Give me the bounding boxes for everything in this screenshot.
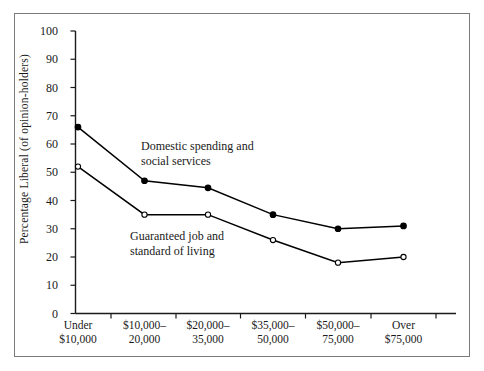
x-axis-ticks bbox=[111, 314, 436, 319]
domestic-spending-label: Domestic spending andsocial services bbox=[141, 139, 254, 169]
x-tick-label-line: $75,000 bbox=[361, 333, 447, 347]
data-point-filled-circle-4 bbox=[335, 226, 341, 232]
series-guaranteed-job bbox=[75, 164, 406, 265]
x-tick-label-5: Over$75,000 bbox=[361, 319, 447, 346]
data-point-filled-circle-2 bbox=[205, 185, 211, 191]
data-point-open-circle-3 bbox=[270, 237, 275, 242]
chart-plot-area bbox=[0, 0, 484, 371]
annotation-line: social services bbox=[141, 154, 254, 169]
data-point-open-circle-2 bbox=[205, 212, 210, 217]
data-point-open-circle-1 bbox=[142, 212, 147, 217]
x-tick-label-line: Over bbox=[361, 319, 447, 333]
figure: Percentage Liberal (of opinion-holders) … bbox=[0, 0, 484, 371]
data-point-open-circle-0 bbox=[75, 164, 80, 169]
annotation-line: standard of living bbox=[130, 244, 224, 259]
data-point-open-circle-4 bbox=[335, 260, 340, 265]
y-axis-ticks bbox=[71, 31, 76, 314]
data-point-filled-circle-3 bbox=[270, 212, 276, 218]
series-line bbox=[78, 167, 404, 263]
annotation-line: Guaranteed job and bbox=[130, 229, 224, 244]
data-point-filled-circle-1 bbox=[142, 178, 148, 184]
data-point-open-circle-5 bbox=[401, 254, 406, 259]
data-point-filled-circle-0 bbox=[75, 124, 81, 130]
annotation-line: Domestic spending and bbox=[141, 139, 254, 154]
data-point-filled-circle-5 bbox=[401, 223, 407, 229]
axis-lines bbox=[76, 31, 457, 314]
guaranteed-job-label: Guaranteed job andstandard of living bbox=[130, 229, 224, 259]
